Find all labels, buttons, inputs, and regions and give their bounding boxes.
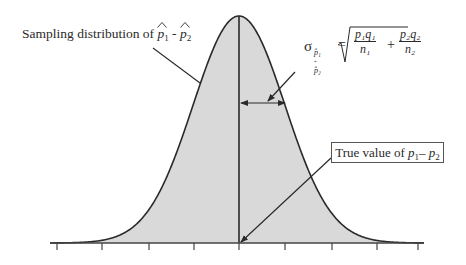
sampling-distribution-label: Sampling distribution of p1 - p2 bbox=[22, 24, 191, 43]
term2-denominator: n₂ bbox=[399, 42, 421, 56]
term1-numerator: p₁q₁ bbox=[354, 28, 376, 42]
sigma-symbol: σ bbox=[304, 38, 312, 55]
term1-denominator: n₁ bbox=[354, 42, 376, 56]
p2-subscript: 2 bbox=[187, 33, 192, 43]
true-value-text: True value of bbox=[335, 145, 408, 160]
true-minus-sign: – bbox=[419, 145, 429, 160]
label-text: Sampling distribution of bbox=[22, 26, 157, 41]
minus-sign: - bbox=[169, 26, 180, 41]
p1-subscript: 1 bbox=[164, 33, 169, 43]
sigma-subscript: p̂₁ - p̂₂ bbox=[314, 48, 321, 75]
true-p2-subscript: 2 bbox=[435, 152, 440, 162]
p1-hat: p1 bbox=[157, 24, 168, 43]
true-value-label-box: True value of p1– p2 bbox=[331, 142, 444, 163]
p2-hat: p2 bbox=[180, 24, 191, 43]
fraction-term-1: p₁q₁ n₁ bbox=[354, 28, 376, 56]
sampling-arrow bbox=[153, 48, 200, 83]
plus-sign: + bbox=[387, 37, 395, 53]
term2-numerator: p₂q₂ bbox=[399, 28, 421, 42]
x-axis bbox=[50, 243, 424, 250]
fraction-term-2: p₂q₂ n₂ bbox=[399, 28, 421, 56]
equals-sign: = bbox=[338, 37, 346, 53]
p2-symbol: p bbox=[180, 26, 187, 41]
